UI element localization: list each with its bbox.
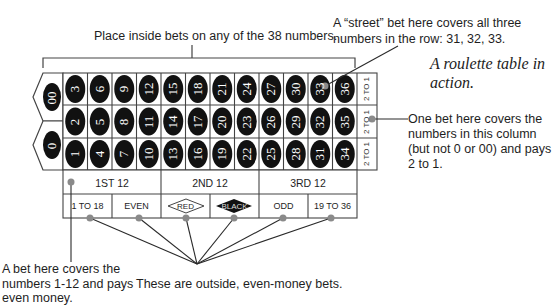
figure-title-2: action.	[430, 73, 474, 92]
street-bet-caption-1: A “street” bet here covers all three	[333, 16, 521, 31]
number-cell-27[interactable]: 27	[263, 77, 279, 101]
dozen-bet-caption-1: A bet here covers the	[2, 262, 120, 277]
number-cell-28[interactable]: 28	[288, 142, 304, 166]
bet-red[interactable]: RED	[161, 199, 210, 214]
dozen-2nd[interactable]: 2ND 12	[161, 176, 259, 191]
column-bet-2[interactable]: 2 TO 1	[361, 104, 373, 140]
bet-black[interactable]: BLACK	[210, 199, 259, 214]
number-cell-17[interactable]: 17	[190, 110, 206, 134]
number-cell-20[interactable]: 20	[214, 110, 230, 134]
inside-bets-caption: Place inside bets on any of the 38 numbe…	[94, 29, 337, 44]
number-cell-36[interactable]: 36	[337, 77, 353, 101]
dozen-1st[interactable]: 1ST 12	[63, 176, 161, 191]
double-zero-label: 00	[44, 90, 60, 106]
number-cell-25[interactable]: 25	[263, 142, 279, 166]
number-cell-34[interactable]: 34	[337, 142, 353, 166]
number-cell-7[interactable]: 7	[116, 142, 132, 166]
bet-1-to-18[interactable]: 1 TO 18	[63, 199, 112, 214]
number-cell-31[interactable]: 31	[312, 142, 328, 166]
number-cell-5[interactable]: 5	[92, 110, 108, 134]
number-cell-8[interactable]: 8	[116, 110, 132, 134]
number-cell-9[interactable]: 9	[116, 77, 132, 101]
number-cell-32[interactable]: 32	[312, 110, 328, 134]
number-cell-2[interactable]: 2	[67, 110, 83, 134]
number-cell-10[interactable]: 10	[141, 142, 157, 166]
number-cell-13[interactable]: 13	[165, 142, 181, 166]
number-cell-4[interactable]: 4	[92, 142, 108, 166]
bet-19-to-36[interactable]: 19 TO 36	[308, 199, 357, 214]
number-cell-11[interactable]: 11	[141, 110, 157, 134]
column-bet-caption-4: 2 to 1.	[408, 157, 443, 172]
column-bet-1[interactable]: 2 TO 1	[361, 71, 373, 107]
number-cell-21[interactable]: 21	[214, 77, 230, 101]
number-cell-30[interactable]: 30	[288, 77, 304, 101]
column-bet-caption-2: numbers in this column	[408, 127, 537, 142]
dozen-3rd[interactable]: 3RD 12	[259, 176, 357, 191]
number-cell-18[interactable]: 18	[190, 77, 206, 101]
number-cell-35[interactable]: 35	[337, 110, 353, 134]
number-cell-14[interactable]: 14	[165, 110, 181, 134]
dozen-bet-caption-3: even money.	[2, 291, 73, 306]
number-cell-6[interactable]: 6	[92, 77, 108, 101]
number-cell-16[interactable]: 16	[190, 142, 206, 166]
zero-label: 0	[44, 138, 60, 154]
inside-bets-bracket	[43, 45, 355, 68]
number-cell-26[interactable]: 26	[263, 110, 279, 134]
number-cell-12[interactable]: 12	[141, 77, 157, 101]
number-cell-3[interactable]: 3	[67, 77, 83, 101]
number-cell-19[interactable]: 19	[214, 142, 230, 166]
number-cell-29[interactable]: 29	[288, 110, 304, 134]
bet-odd[interactable]: ODD	[259, 199, 308, 214]
figure-title-1: A roulette table in	[430, 54, 545, 73]
dozen-bet-caption-2: numbers 1-12 and pays	[2, 277, 133, 292]
column-bet-3[interactable]: 2 TO 1	[361, 136, 373, 172]
number-cell-24[interactable]: 24	[239, 77, 255, 101]
number-cell-15[interactable]: 15	[165, 77, 181, 101]
number-cell-23[interactable]: 23	[239, 110, 255, 134]
column-bet-caption-3: (but not 0 or 00) and pays	[408, 142, 551, 157]
street-bet-caption-2: numbers in the row: 31, 32, 33.	[333, 32, 505, 47]
number-cell-33[interactable]: 33	[312, 77, 328, 101]
outside-bets-caption: These are outside, even-money bets.	[136, 277, 342, 292]
number-cell-1[interactable]: 1	[67, 142, 83, 166]
bet-even[interactable]: EVEN	[112, 199, 161, 214]
number-cell-22[interactable]: 22	[239, 142, 255, 166]
column-bet-caption-1: One bet here covers the	[408, 112, 542, 127]
